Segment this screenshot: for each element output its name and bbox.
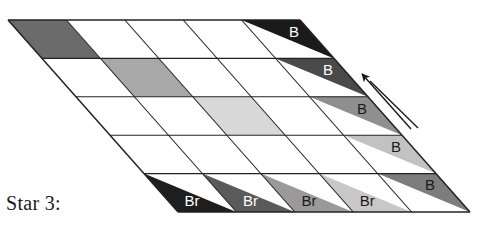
right-edge-triangle-label: B bbox=[289, 23, 299, 40]
figure-stage: BBBBBBrBrBrBr Star 3: bbox=[0, 0, 483, 226]
sheared-grid-figure: BBBBBBrBrBrBr bbox=[0, 0, 483, 226]
figure-caption: Star 3: bbox=[6, 192, 61, 215]
right-edge-triangle-label: B bbox=[425, 176, 435, 193]
right-edge-triangle-label: B bbox=[323, 61, 333, 78]
right-edge-triangle-label: B bbox=[357, 100, 367, 117]
bottom-edge-triangle-label: Br bbox=[243, 192, 258, 209]
right-edge-triangle-label: B bbox=[391, 138, 401, 155]
bottom-edge-triangle-label: Br bbox=[301, 192, 316, 209]
bottom-edge-triangle-label: Br bbox=[360, 192, 375, 209]
bottom-edge-triangle-label: Br bbox=[185, 192, 200, 209]
